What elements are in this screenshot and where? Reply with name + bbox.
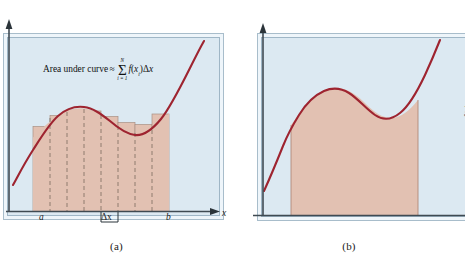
panel-b: Area under curve= b ∫ a f(x)dx=F(b)−F(a)… <box>233 0 465 263</box>
panel-b-caption: (b) <box>233 240 465 252</box>
formula-a-relation: ≈ <box>108 64 116 74</box>
panel-a-caption: (a) <box>0 240 233 252</box>
formula-a-subscript: i <box>138 71 140 77</box>
panel-a: Area under curve≈ N Σ i = 1 f(xi)Δx a b … <box>0 0 233 263</box>
figure-area-under-curve: Area under curve≈ N Σ i = 1 f(xi)Δx a b … <box>0 0 465 263</box>
panel-a-graphic <box>0 0 233 263</box>
limit-label-a: a <box>39 212 44 222</box>
formula-a-dx: x <box>149 64 153 74</box>
formula-a-lead: Area under curve <box>43 64 108 74</box>
x-axis-label: x <box>222 208 226 218</box>
panel-b-graphic <box>233 0 465 263</box>
summation-symbol: N Σ i = 1 <box>117 58 127 82</box>
sum-lower-limit: i = 1 <box>117 76 127 81</box>
formula-riemann-sum: Area under curve≈ N Σ i = 1 f(xi)Δx <box>43 58 153 82</box>
delta-x-label: Δx <box>101 212 112 222</box>
limit-label-b: b <box>166 212 171 222</box>
